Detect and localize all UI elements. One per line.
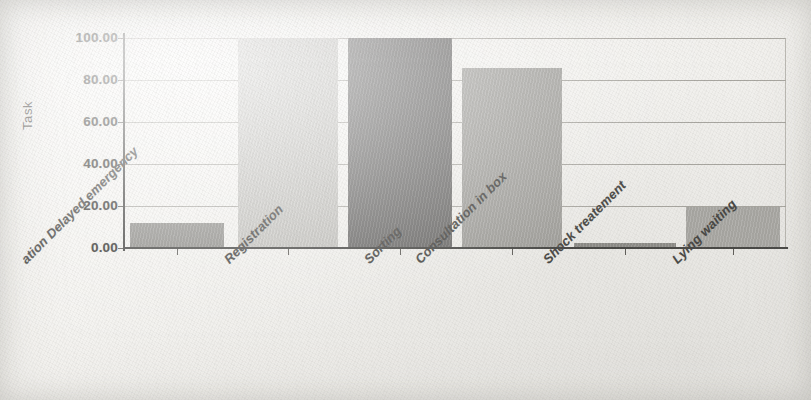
x-tick-mark [288, 249, 289, 255]
x-tick-label-2: Sorting [361, 223, 404, 266]
x-tick-mark [400, 249, 401, 255]
x-axis-tick-labels: ation Delayed emergency Registration Sor… [0, 0, 811, 400]
x-tick-mark [733, 249, 734, 255]
x-tick-mark [177, 249, 178, 255]
figure-scan: Task 100.00 80.00 60.00 40.00 20.00 0.00 [0, 0, 811, 400]
x-tick-label-5: Lying waiting [669, 196, 739, 266]
y-axis-line [123, 33, 125, 251]
x-tick-label-4: Shock treatement [540, 178, 629, 267]
x-tick-mark [512, 249, 513, 255]
x-axis-line [123, 247, 788, 249]
x-tick-mark [625, 249, 626, 255]
x-tick-label-1: Registration [221, 202, 286, 267]
x-tick-label-3: Consultation in box [412, 169, 510, 267]
